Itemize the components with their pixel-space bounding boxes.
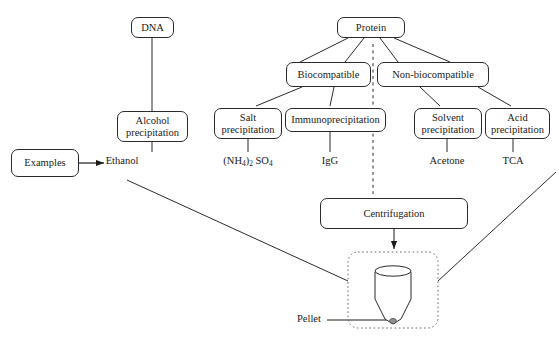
node-salt-precipitation-label: Salt precipitation: [221, 112, 274, 135]
node-solvent-precipitation[interactable]: Solvent precipitation: [414, 108, 482, 139]
node-acid-precipitation-label: Acid precipitation: [491, 112, 544, 135]
diagram-canvas: DNA Alcohol precipitation Examples Prote…: [0, 0, 559, 348]
label-tca-text: TCA: [503, 155, 524, 166]
centrifuge-tube-icon: [375, 266, 411, 324]
label-ammonium-sulfate-suffix: SO: [253, 155, 269, 166]
label-ammonium-sulfate: (NH4)2 SO4: [188, 155, 308, 167]
edge-protein-to-nonbio-inner: [380, 38, 398, 62]
edge-protein-to-biocompatible-outer: [300, 38, 348, 62]
label-acetone: Acetone: [417, 155, 477, 166]
node-salt-precipitation[interactable]: Salt precipitation: [214, 108, 282, 139]
node-alcohol-precipitation[interactable]: Alcohol precipitation: [117, 111, 188, 142]
node-biocompatible-label: Biocompatible: [298, 69, 360, 80]
edge-nonbio-to-acid: [478, 87, 511, 106]
node-immunoprecipitation[interactable]: Immunoprecipitation: [285, 108, 386, 132]
label-igg: IgG: [300, 155, 360, 166]
label-ethanol: Ethanol: [92, 155, 152, 166]
label-acetone-text: Acetone: [430, 155, 465, 166]
edge-biocompatible-to-immuno: [330, 87, 334, 106]
node-non-biocompatible[interactable]: Non-biocompatible: [377, 62, 489, 87]
node-immunoprecipitation-label: Immunoprecipitation: [291, 114, 380, 125]
node-protein-label: Protein: [356, 22, 386, 33]
edge-protein-to-nonbio-outer: [394, 38, 450, 62]
label-tca: TCA: [488, 155, 538, 166]
diagram-edges: [0, 0, 559, 348]
node-centrifugation-label: Centrifugation: [363, 208, 424, 219]
node-dna[interactable]: DNA: [131, 17, 174, 38]
tube-rim: [375, 266, 411, 276]
label-pellet: Pellet: [297, 313, 321, 324]
node-examples[interactable]: Examples: [11, 149, 79, 177]
label-igg-text: IgG: [322, 155, 338, 166]
node-biocompatible[interactable]: Biocompatible: [286, 62, 371, 87]
node-protein[interactable]: Protein: [337, 17, 405, 38]
node-acid-precipitation[interactable]: Acid precipitation: [485, 108, 550, 139]
label-ethanol-text: Ethanol: [106, 155, 139, 166]
node-examples-label: Examples: [24, 157, 65, 168]
node-dna-label: DNA: [141, 22, 164, 33]
edge-ethanol-to-tube: [127, 180, 348, 281]
edge-biocompatible-to-salt: [256, 87, 302, 106]
node-alcohol-precipitation-label: Alcohol precipitation: [126, 115, 179, 138]
edge-protein-to-biocompatible-inner: [345, 38, 364, 62]
label-ammonium-sulfate-prefix: (NH: [223, 155, 242, 166]
node-centrifugation[interactable]: Centrifugation: [320, 198, 468, 229]
label-pellet-text: Pellet: [297, 313, 321, 324]
label-ammonium-sulfate-sub3: 4: [269, 159, 273, 168]
node-non-biocompatible-label: Non-biocompatible: [392, 69, 474, 80]
tube-body: [375, 272, 411, 324]
edge-nonbio-to-solvent: [420, 87, 440, 106]
pellet-dot: [390, 318, 397, 323]
node-solvent-precipitation-label: Solvent precipitation: [421, 112, 474, 135]
